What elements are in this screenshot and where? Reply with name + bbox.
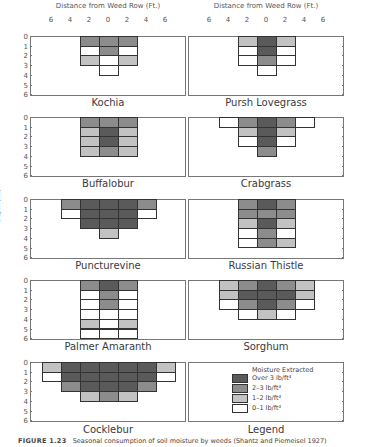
panel-title: Kochia — [30, 97, 186, 108]
frame — [188, 421, 344, 422]
y-tick-label: 0 — [24, 114, 28, 122]
moisture-cell — [118, 218, 138, 229]
y-tick-mark — [342, 55, 344, 56]
y-tick-mark — [342, 372, 344, 373]
y-tick-mark — [30, 218, 32, 219]
x-tick-label: 4 — [68, 16, 72, 24]
y-tick-mark — [342, 290, 344, 291]
moisture-cell — [257, 146, 277, 157]
y-tick-mark — [30, 381, 32, 382]
panel-kochia: 0123456 — [30, 36, 186, 96]
y-tick-mark — [30, 319, 32, 320]
y-tick-mark — [30, 411, 32, 412]
x-tick-label: 4 — [144, 16, 148, 24]
moisture-cell — [295, 299, 315, 310]
y-tick-label: 6 — [24, 172, 28, 180]
y-tick-mark — [30, 209, 32, 210]
y-tick-mark — [342, 94, 344, 95]
y-tick-mark — [30, 46, 32, 47]
legend-item-label: 2–3 lb/ft³ — [252, 384, 281, 392]
moisture-cell — [238, 238, 258, 249]
legend-swatch — [232, 384, 248, 393]
y-tick-label: 4 — [24, 72, 28, 80]
moisture-cell — [238, 309, 258, 320]
frame — [188, 280, 189, 340]
legend-item-label: 0–1 lb/ft³ — [252, 404, 281, 412]
panel-puncturevine: 0123456 — [30, 199, 186, 259]
moisture-cell — [219, 299, 239, 310]
y-tick-mark — [30, 55, 32, 56]
x-tick-label: 6 — [163, 16, 167, 24]
y-tick-label: 6 — [24, 417, 28, 425]
panel-crabgrass — [188, 117, 344, 177]
y-tick-mark — [30, 290, 32, 291]
y-tick-mark — [30, 401, 32, 402]
legend-item-label: Over 3 lb/ft³ — [252, 374, 291, 382]
frame — [188, 36, 189, 96]
legend-swatch — [232, 394, 248, 403]
y-tick-label: 1 — [24, 124, 28, 132]
panel-buffalobur: 0123456 — [30, 117, 186, 177]
frame — [188, 339, 344, 340]
panel-title: Cocklebur — [30, 424, 186, 435]
y-tick-mark — [342, 156, 344, 157]
moisture-cell — [80, 146, 100, 157]
y-tick-mark — [30, 85, 32, 86]
moisture-cell — [99, 228, 119, 239]
y-tick-label: 3 — [24, 62, 28, 70]
x-tick-label: 4 — [302, 16, 306, 24]
legend-swatch — [232, 404, 248, 413]
y-tick-mark — [30, 166, 32, 167]
y-tick-label: 2 — [24, 52, 28, 60]
panel-palmer-amaranth: 0123456 — [30, 280, 186, 340]
moisture-cell — [99, 65, 119, 76]
y-tick-mark — [30, 238, 32, 239]
frame — [185, 199, 186, 259]
y-tick-mark — [342, 75, 344, 76]
y-tick-mark — [30, 65, 32, 66]
moisture-cell — [257, 238, 277, 249]
moisture-cell — [295, 117, 315, 128]
y-tick-label: 4 — [24, 398, 28, 406]
y-tick-mark — [342, 411, 344, 412]
y-tick-mark — [342, 381, 344, 382]
caption-text: Seasonal consumption of soil moisture by… — [73, 437, 327, 445]
y-tick-label: 1 — [24, 206, 28, 214]
x-tick-label: 2 — [87, 16, 91, 24]
y-tick-mark — [30, 156, 32, 157]
moisture-cell — [61, 381, 81, 392]
panel-pursh-lovegrass — [188, 36, 344, 96]
x-tick-label: 2 — [245, 16, 249, 24]
y-tick-mark — [30, 94, 32, 95]
figure-caption: FIGURE 1.23 Seasonal consumption of soil… — [18, 437, 327, 445]
y-tick-label: 1 — [24, 369, 28, 377]
y-tick-mark — [30, 248, 32, 249]
y-tick-label: 2 — [24, 133, 28, 141]
moisture-cell — [137, 381, 157, 392]
y-tick-mark — [342, 136, 344, 137]
x-tick-label: 6 — [321, 16, 325, 24]
y-tick-mark — [30, 299, 32, 300]
frame — [185, 362, 186, 422]
y-tick-mark — [30, 136, 32, 137]
y-tick-label: 1 — [24, 43, 28, 51]
y-tick-mark — [342, 420, 344, 421]
y-tick-mark — [342, 319, 344, 320]
y-tick-mark — [30, 338, 32, 339]
y-tick-mark — [342, 401, 344, 402]
legend-label: Legend — [188, 424, 344, 435]
moisture-cell — [80, 55, 100, 66]
panel-title: Palmer Amaranth — [30, 341, 186, 352]
panel-title: Russian Thistle — [188, 260, 344, 271]
legend-swatch — [232, 374, 248, 383]
y-tick-mark — [342, 238, 344, 239]
moisture-cell — [99, 329, 119, 340]
panel-title: Sorghum — [188, 341, 344, 352]
y-tick-label: 5 — [24, 408, 28, 416]
frame — [188, 176, 344, 177]
y-tick-mark — [342, 338, 344, 339]
moisture-cell — [118, 329, 138, 340]
y-tick-mark — [342, 166, 344, 167]
x-tick-label: 2 — [125, 16, 129, 24]
y-tick-mark — [30, 146, 32, 147]
